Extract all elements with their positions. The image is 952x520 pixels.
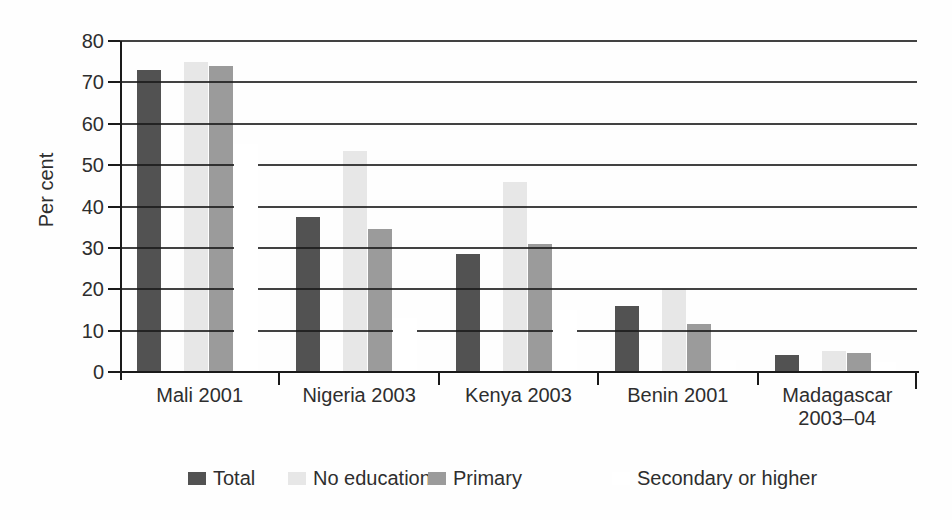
legend-swatch-primary — [428, 472, 446, 485]
y-tick-20 — [108, 288, 120, 290]
x-tick-4 — [757, 372, 759, 385]
legend-swatch-no-education — [288, 472, 306, 485]
y-tick-80 — [108, 40, 120, 42]
y-tick-30 — [108, 247, 120, 249]
x-tick-1 — [278, 372, 280, 385]
bar-madagascar-2003-04-no-education — [822, 351, 846, 372]
x-category-label-nigeria-2003: Nigeria 2003 — [279, 384, 439, 407]
y-tick-label-60: 60 — [68, 114, 104, 134]
gridline-60 — [120, 123, 917, 125]
y-tick-10 — [108, 330, 120, 332]
x-axis-line — [120, 371, 919, 373]
x-category-label-benin-2001: Benin 2001 — [598, 384, 758, 407]
legend-label-total: Total — [213, 467, 255, 490]
bar-nigeria-2003-total — [296, 217, 320, 372]
y-tick-label-80: 80 — [68, 31, 104, 51]
legend-swatch-secondary-or-higher — [612, 472, 630, 485]
x-category-label-line: Kenya 2003 — [439, 384, 599, 407]
x-category-label-madagascar-2003-04: Madagascar2003–04 — [757, 384, 917, 430]
bar-madagascar-2003-04-primary — [847, 353, 871, 372]
bar-kenya-2003-no-education — [503, 182, 527, 372]
bar-mali-2001-secondary-or-higher — [234, 144, 258, 372]
x-category-label-line: Nigeria 2003 — [279, 384, 439, 407]
y-tick-label-20: 20 — [68, 279, 104, 299]
gridline-80 — [120, 40, 917, 42]
y-tick-60 — [108, 123, 120, 125]
y-tick-label-0: 0 — [68, 362, 104, 382]
legend-label-secondary-or-higher: Secondary or higher — [637, 467, 817, 490]
x-category-label-line: Madagascar — [757, 384, 917, 407]
bar-nigeria-2003-primary — [368, 229, 392, 372]
x-tick-2 — [438, 372, 440, 385]
bar-mali-2001-total — [137, 70, 161, 372]
gridline-70 — [120, 81, 917, 83]
y-tick-0 — [108, 371, 120, 373]
bar-mali-2001-no-education — [184, 62, 208, 372]
legend-label-no-education: No education — [313, 467, 431, 490]
bar-nigeria-2003-no-education — [343, 151, 367, 372]
y-tick-50 — [108, 164, 120, 166]
legend: TotalNo educationPrimarySecondary or hig… — [0, 464, 952, 494]
legend-label-primary: Primary — [453, 467, 522, 490]
y-tick-label-50: 50 — [68, 155, 104, 175]
x-tick-3 — [597, 372, 599, 385]
legend-item-no-education: No education — [288, 464, 431, 492]
bar-madagascar-2003-04-total — [775, 355, 799, 372]
x-category-label-line: Benin 2001 — [598, 384, 758, 407]
x-axis-end-tick — [915, 372, 917, 389]
y-tick-40 — [108, 206, 120, 208]
bar-kenya-2003-secondary-or-higher — [553, 310, 577, 372]
bar-chart-figure: Per cent 01020304050607080 Mali 2001Nige… — [0, 0, 952, 520]
y-tick-label-30: 30 — [68, 238, 104, 258]
x-category-label-line: Mali 2001 — [120, 384, 280, 407]
x-category-label-mali-2001: Mali 2001 — [120, 384, 280, 407]
legend-item-secondary-or-higher: Secondary or higher — [612, 464, 817, 492]
bar-nigeria-2003-secondary-or-higher — [393, 318, 417, 372]
y-tick-label-10: 10 — [68, 321, 104, 341]
legend-item-primary: Primary — [428, 464, 522, 492]
x-category-label-kenya-2003: Kenya 2003 — [439, 384, 599, 407]
bar-kenya-2003-total — [456, 254, 480, 372]
bar-kenya-2003-primary — [528, 244, 552, 372]
y-tick-label-70: 70 — [68, 72, 104, 92]
plot-area — [120, 41, 917, 372]
bar-mali-2001-primary — [209, 66, 233, 372]
y-axis-line — [120, 41, 122, 380]
legend-swatch-total — [188, 472, 206, 485]
y-tick-label-40: 40 — [68, 197, 104, 217]
y-tick-70 — [108, 81, 120, 83]
bar-benin-2001-total — [615, 306, 639, 372]
y-axis-title: Per cent — [35, 153, 58, 227]
x-category-label-line: 2003–04 — [757, 407, 917, 430]
legend-item-total: Total — [188, 464, 255, 492]
